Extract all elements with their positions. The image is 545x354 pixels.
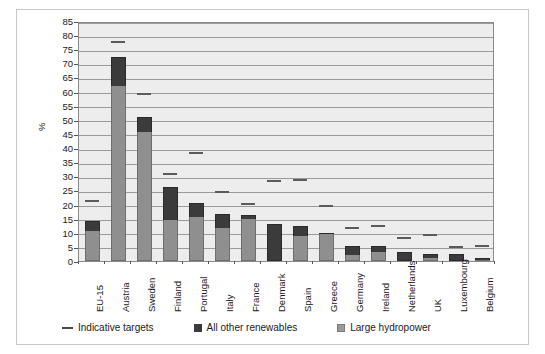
x-axis-tick-mark (338, 261, 339, 264)
gray-square-swatch-icon (337, 324, 345, 332)
bar-segment-other-renewables (189, 203, 204, 217)
gridline (79, 37, 493, 38)
x-axis-label-portugal: Portugal (199, 277, 209, 312)
y-axis-tick-label: 40 (62, 144, 73, 154)
x-axis-tick-mark (234, 261, 235, 264)
target-marker-france (241, 203, 255, 205)
gridline (79, 107, 493, 108)
x-axis-tick-mark (78, 261, 79, 264)
bar-segment-large-hydropower (111, 86, 126, 261)
x-axis-tick-mark (494, 261, 495, 264)
target-marker-germany (345, 227, 359, 229)
x-axis-tick-mark (182, 261, 183, 264)
y-axis-tick-label: 70 (62, 60, 73, 70)
bar-portugal (189, 203, 204, 261)
gridline (79, 79, 493, 80)
chart-legend: Indicative targetsAll other renewablesLa… (62, 322, 431, 333)
plot-area (78, 22, 494, 262)
bar-segment-large-hydropower (163, 220, 178, 261)
bar-segment-other-renewables (111, 57, 126, 86)
bar-segment-other-renewables (345, 246, 360, 254)
bar-segment-other-renewables (163, 187, 178, 220)
y-axis-tick-label: 30 (62, 173, 73, 183)
bar-eu-15 (85, 221, 100, 261)
legend-label: All other renewables (207, 322, 298, 333)
target-marker-sweden (137, 93, 151, 95)
bar-segment-large-hydropower (189, 217, 204, 261)
bar-spain (293, 226, 308, 261)
bar-segment-other-renewables (293, 226, 308, 237)
y-axis-tick-label: 55 (62, 102, 73, 112)
x-axis-label-finland: Finland (173, 281, 183, 312)
y-axis-tick-label: 25 (62, 187, 73, 197)
target-marker-austria (111, 41, 125, 43)
y-axis-tick-label: 50 (62, 116, 73, 126)
legend-item-all-other-renewables: All other renewables (194, 322, 298, 333)
x-axis-tick-mark (442, 261, 443, 264)
bar-segment-large-hydropower (293, 236, 308, 261)
x-axis-tick-mark (390, 261, 391, 264)
target-marker-ireland (371, 225, 385, 227)
y-axis-title: % (36, 123, 47, 131)
dark-square-swatch-icon (194, 324, 202, 332)
y-axis-tick-label: 75 (62, 45, 73, 55)
bar-italy (215, 214, 230, 261)
x-axis-label-eu-15: EU-15 (95, 285, 105, 312)
bar-germany (345, 246, 360, 261)
x-axis-tick-mark (130, 261, 131, 264)
y-axis-tick-label: 45 (62, 130, 73, 140)
y-axis-tick-label: 20 (62, 201, 73, 211)
x-axis-tick-mark (156, 261, 157, 264)
x-axis-tick-mark (286, 261, 287, 264)
target-marker-portugal (189, 152, 203, 154)
bar-segment-large-hydropower (319, 234, 334, 261)
x-axis-label-netherlands: Netherlands (407, 261, 417, 312)
gridline (79, 65, 493, 66)
target-marker-uk (423, 234, 437, 236)
x-axis-label-sweden: Sweden (147, 278, 157, 312)
bar-segment-large-hydropower (371, 252, 386, 261)
y-axis-tick-label: 10 (62, 229, 73, 239)
x-axis-label-germany: Germany (355, 273, 365, 312)
x-axis-label-uk: UK (433, 299, 443, 312)
bar-segment-large-hydropower (241, 219, 256, 261)
x-axis-label-spain: Spain (303, 288, 313, 312)
y-axis-tick-label: 0 (68, 257, 73, 267)
bar-belgium (475, 258, 490, 261)
target-marker-luxembourg (449, 246, 463, 248)
bar-netherlands (397, 252, 412, 261)
bar-austria (111, 57, 126, 261)
x-axis-label-ireland: Ireland (381, 283, 391, 312)
y-axis-tick-label: 65 (62, 74, 73, 84)
bar-segment-large-hydropower (215, 228, 230, 261)
bar-segment-other-renewables (215, 214, 230, 228)
x-axis-tick-mark (468, 261, 469, 264)
target-marker-greece (319, 205, 333, 207)
x-axis-label-italy: Italy (225, 295, 235, 312)
gridline (79, 51, 493, 52)
bar-france (241, 215, 256, 261)
bar-sweden (137, 117, 152, 261)
bar-denmark (267, 224, 282, 261)
x-axis-label-greece: Greece (329, 281, 339, 312)
bar-segment-large-hydropower (345, 255, 360, 261)
bar-segment-large-hydropower (423, 258, 438, 261)
bar-segment-other-renewables (137, 117, 152, 132)
bar-segment-large-hydropower (475, 260, 490, 261)
target-marker-denmark (267, 180, 281, 182)
x-axis-tick-mark (312, 261, 313, 264)
y-axis-tick-label: 5 (68, 243, 73, 253)
y-axis-tick-label: 60 (62, 88, 73, 98)
legend-label: Large hydropower (350, 322, 431, 333)
target-marker-eu-15 (85, 200, 99, 202)
bar-segment-other-renewables (267, 224, 282, 261)
legend-item-indicative-targets: Indicative targets (62, 322, 154, 333)
x-axis-tick-mark (104, 261, 105, 264)
gridline (79, 23, 493, 24)
target-marker-belgium (475, 245, 489, 247)
target-marker-finland (163, 173, 177, 175)
chart-figure: % 0510152025303540455055606570758085 EU-… (0, 0, 545, 354)
bar-greece (319, 233, 334, 261)
y-axis-tick-label: 80 (62, 31, 73, 41)
target-marker-spain (293, 179, 307, 181)
